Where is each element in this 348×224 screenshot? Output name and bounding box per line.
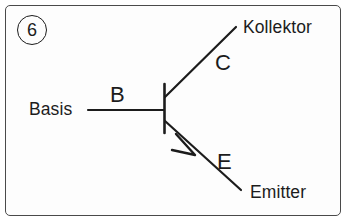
emitter-terminal-label: Emitter <box>250 184 306 202</box>
base-terminal-label: Basis <box>29 101 72 119</box>
transistor-figure: 6 Basis Kollektor Emitter B C E <box>0 0 348 224</box>
collector-terminal-label: Kollektor <box>243 19 312 37</box>
collector-letter-label: C <box>215 52 231 74</box>
emitter-letter-label: E <box>217 151 232 173</box>
figure-number-badge: 6 <box>17 15 47 45</box>
base-letter-label: B <box>110 84 125 106</box>
